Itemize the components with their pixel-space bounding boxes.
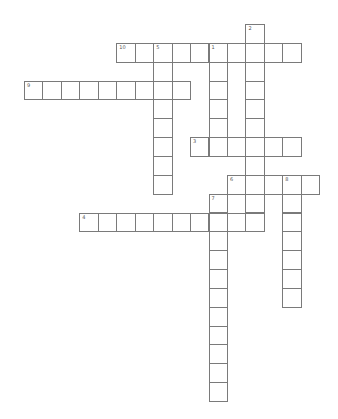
- crossword-cell[interactable]: [61, 81, 80, 101]
- clue-number: 1: [212, 45, 215, 50]
- crossword-cell[interactable]: [42, 81, 61, 101]
- crossword-cell[interactable]: 5: [153, 43, 172, 63]
- crossword-cell[interactable]: [116, 213, 135, 233]
- crossword-cell[interactable]: [264, 137, 283, 157]
- crossword-cell[interactable]: [153, 156, 172, 176]
- crossword-cell[interactable]: 10: [116, 43, 135, 63]
- crossword-cell[interactable]: [209, 307, 228, 327]
- crossword-cell[interactable]: [209, 344, 228, 364]
- crossword-cell[interactable]: [245, 156, 264, 176]
- crossword-cell[interactable]: 8: [282, 175, 301, 195]
- crossword-cell[interactable]: [153, 137, 172, 157]
- crossword-cell[interactable]: [172, 81, 191, 101]
- crossword-cell[interactable]: [209, 62, 228, 82]
- crossword-cell[interactable]: 9: [24, 81, 43, 101]
- crossword-cell[interactable]: 7: [209, 194, 228, 214]
- crossword-cell[interactable]: [79, 81, 98, 101]
- crossword-cell[interactable]: [135, 43, 154, 63]
- crossword-cell[interactable]: [172, 213, 191, 233]
- crossword-cell[interactable]: [98, 213, 117, 233]
- crossword-cell[interactable]: [245, 118, 264, 138]
- crossword-cell[interactable]: [282, 137, 301, 157]
- crossword-cell[interactable]: [209, 382, 228, 402]
- crossword-cell[interactable]: [245, 62, 264, 82]
- crossword-cell[interactable]: 1: [209, 43, 228, 63]
- clue-number: 7: [212, 196, 215, 201]
- crossword-cell[interactable]: [245, 99, 264, 119]
- clue-number: 9: [27, 83, 30, 88]
- clue-number: 8: [285, 177, 288, 182]
- crossword-cell[interactable]: [209, 363, 228, 383]
- clue-number: 5: [156, 45, 159, 50]
- crossword-cell[interactable]: [209, 326, 228, 346]
- crossword-cell[interactable]: [264, 43, 283, 63]
- crossword-cell[interactable]: [245, 137, 264, 157]
- clue-number: 2: [248, 26, 251, 31]
- crossword-cell[interactable]: [209, 231, 228, 251]
- crossword-cell[interactable]: [282, 288, 301, 308]
- crossword-cell[interactable]: [209, 288, 228, 308]
- crossword-cell[interactable]: 6: [227, 175, 246, 195]
- crossword-cell[interactable]: [245, 43, 264, 63]
- crossword-cell[interactable]: [209, 137, 228, 157]
- crossword-cell[interactable]: 3: [190, 137, 209, 157]
- crossword-cell[interactable]: [245, 175, 264, 195]
- crossword-cell[interactable]: [116, 81, 135, 101]
- crossword-cell[interactable]: [227, 137, 246, 157]
- clue-number: 10: [119, 45, 125, 50]
- crossword-cell[interactable]: [98, 81, 117, 101]
- crossword-cell[interactable]: [227, 213, 246, 233]
- crossword-cell[interactable]: [209, 269, 228, 289]
- crossword-cell[interactable]: [153, 213, 172, 233]
- crossword-cell[interactable]: [282, 231, 301, 251]
- crossword-cell[interactable]: [153, 175, 172, 195]
- crossword-cell[interactable]: [209, 99, 228, 119]
- crossword-cell[interactable]: [153, 99, 172, 119]
- clue-number: 3: [193, 139, 196, 144]
- crossword-cell[interactable]: [282, 43, 301, 63]
- crossword-cell[interactable]: [153, 62, 172, 82]
- crossword-cell[interactable]: [227, 43, 246, 63]
- crossword-grid: 12345687910: [0, 0, 338, 419]
- crossword-cell[interactable]: [172, 43, 191, 63]
- clue-number: 4: [82, 215, 85, 220]
- crossword-cell[interactable]: [282, 213, 301, 233]
- crossword-cell[interactable]: [245, 194, 264, 214]
- crossword-cell[interactable]: [190, 213, 209, 233]
- crossword-cell[interactable]: [153, 118, 172, 138]
- crossword-cell[interactable]: [245, 213, 264, 233]
- crossword-cell[interactable]: [301, 175, 320, 195]
- crossword-cell[interactable]: 4: [79, 213, 98, 233]
- crossword-cell[interactable]: [264, 175, 283, 195]
- crossword-cell[interactable]: [209, 250, 228, 270]
- crossword-cell[interactable]: [209, 118, 228, 138]
- crossword-cell[interactable]: [282, 194, 301, 214]
- crossword-cell[interactable]: [282, 269, 301, 289]
- crossword-cell[interactable]: [135, 213, 154, 233]
- crossword-cell[interactable]: [209, 213, 228, 233]
- crossword-cell[interactable]: [282, 250, 301, 270]
- clue-number: 6: [230, 177, 233, 182]
- crossword-cell[interactable]: [135, 81, 154, 101]
- crossword-cell[interactable]: [245, 81, 264, 101]
- crossword-cell[interactable]: [190, 43, 209, 63]
- crossword-cell[interactable]: [209, 81, 228, 101]
- crossword-cell[interactable]: [153, 81, 172, 101]
- crossword-cell[interactable]: 2: [245, 24, 264, 44]
